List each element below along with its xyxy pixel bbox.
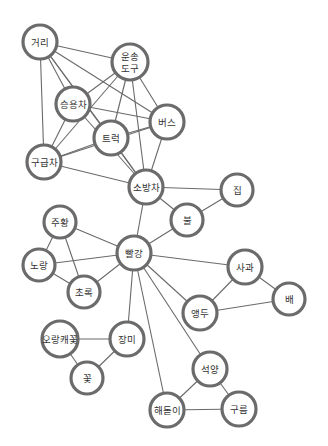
node-label: 거리 [31,37,49,48]
node-bus: 버스 [150,105,184,139]
node-truck: 트럭 [94,121,128,155]
node-label: 구급차 [31,157,58,168]
nodes-layer: 거리운송도구승용차트럭버스구급차소방차집불주황빨강노랑초록사과배앵두장미오랑캐꽃… [23,25,305,427]
node-label: 소방차 [133,182,160,193]
semantic-network-diagram: 거리운송도구승용차트럭버스구급차소방차집불주황빨강노랑초록사과배앵두장미오랑캐꽃… [0,0,328,446]
node-label: 꽃 [83,373,92,384]
node-label: 빨강 [125,248,143,259]
node-label: 초록 [75,287,93,298]
node-label: 노랑 [30,260,48,271]
node-orange: 주황 [44,206,76,238]
node-pear: 배 [273,283,305,315]
node-label: 도구 [121,63,139,74]
node-sunset: 석양 [193,352,227,386]
node-transport: 운송도구 [112,44,148,80]
node-firetruck: 소방차 [129,170,163,204]
node-label: 승용차 [60,99,87,110]
node-label: 운송 [121,51,139,62]
node-car: 승용차 [56,87,90,121]
node-label: 앵두 [191,308,209,319]
node-violet: 오랑캐꽃 [42,321,78,357]
node-label: 불 [183,215,192,226]
node-label: 주황 [51,217,69,228]
node-cloud: 구름 [222,392,256,426]
node-green: 초록 [68,276,100,308]
node-label: 트럭 [102,133,120,144]
node-label: 집 [233,185,242,196]
node-rose: 장미 [110,322,144,356]
node-ambulance: 구급차 [27,145,61,179]
node-label: 오랑캐꽃 [42,334,78,345]
node-label: 사과 [236,262,254,273]
node-label: 장미 [118,334,136,345]
node-label: 구름 [230,404,248,415]
node-label: 석양 [201,364,219,375]
node-label: 해돋이 [154,405,181,416]
node-cherry: 앵두 [183,296,217,330]
node-sunrise: 해돋이 [150,393,184,427]
node-label: 배 [285,294,294,305]
node-label: 버스 [158,117,176,128]
node-flower: 꽃 [71,362,103,394]
node-red: 빨강 [117,236,151,270]
node-apple: 사과 [228,250,262,284]
node-fire: 불 [171,204,203,236]
node-yellow: 노랑 [23,249,55,281]
node-house: 집 [221,174,253,206]
node-street: 거리 [23,25,57,59]
